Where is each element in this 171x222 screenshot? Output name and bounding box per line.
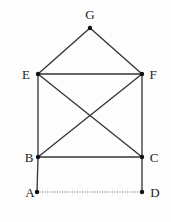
diagram-canvas: GEFBCAD bbox=[0, 0, 171, 222]
label-g: G bbox=[85, 8, 94, 21]
label-b: B bbox=[25, 151, 34, 164]
label-d: D bbox=[150, 186, 159, 199]
point-e bbox=[36, 72, 40, 76]
point-a bbox=[35, 190, 39, 194]
point-g bbox=[88, 26, 92, 30]
segment-gf bbox=[90, 28, 142, 74]
point-f bbox=[140, 72, 144, 76]
point-b bbox=[36, 155, 40, 159]
label-e: E bbox=[22, 68, 30, 81]
label-a: A bbox=[25, 186, 34, 199]
label-c: C bbox=[150, 151, 159, 164]
point-c bbox=[140, 155, 144, 159]
segment-ge bbox=[38, 28, 90, 74]
point-d bbox=[140, 190, 144, 194]
label-f: F bbox=[149, 68, 156, 81]
segment-ba bbox=[37, 157, 38, 192]
